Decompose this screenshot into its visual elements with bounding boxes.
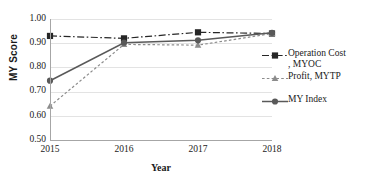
x-axis-title: Year	[50, 162, 272, 173]
legend-item-profit[interactable]: Profit, MYTP	[262, 71, 370, 85]
plot-area	[50, 19, 272, 140]
chart-legend: Operation Cost, MYOC Profit, MYTP MY Ind…	[262, 48, 370, 109]
x-tick-label: 2016	[97, 144, 151, 154]
chart-container: MY Score 1.00 0.90 0.80 0.70 0.60 0.50 2…	[0, 0, 370, 182]
x-tick-label: 2017	[171, 144, 225, 154]
data-point-circle	[269, 30, 275, 36]
y-tick-label: 0.50	[16, 135, 46, 144]
data-point-square	[195, 29, 201, 35]
series-line	[50, 32, 272, 38]
y-tick-label: 0.80	[16, 62, 46, 71]
series-my-index	[47, 30, 275, 84]
series-line	[50, 34, 272, 107]
legend-key-circle-icon	[262, 95, 288, 108]
data-point-circle	[195, 37, 201, 43]
legend-label: Operation Cost, MYOC	[288, 48, 346, 70]
legend-key-square-icon	[262, 49, 288, 62]
data-point-circle	[272, 98, 278, 104]
y-tick-label: 0.60	[16, 111, 46, 120]
y-tick-label: 1.00	[16, 14, 46, 23]
series-lines	[50, 19, 272, 140]
x-axis-line	[50, 140, 272, 141]
data-point-circle	[121, 40, 127, 46]
legend-key-triangle-icon	[262, 72, 288, 85]
x-tick-label: 2018	[245, 144, 299, 154]
legend-item-my-index[interactable]: MY Index	[262, 94, 370, 108]
legend-label: Profit, MYTP	[288, 71, 341, 82]
y-axis-tick-labels: 1.00 0.90 0.80 0.70 0.60 0.50	[12, 0, 46, 182]
legend-label: MY Index	[288, 94, 327, 105]
data-point-square	[272, 52, 278, 58]
y-axis-line	[50, 19, 51, 140]
legend-item-operation-cost[interactable]: Operation Cost, MYOC	[262, 48, 370, 70]
y-tick-label: 0.70	[16, 86, 46, 95]
y-tick-label: 0.90	[16, 38, 46, 47]
series-line	[50, 33, 272, 81]
x-tick-label: 2015	[23, 144, 77, 154]
